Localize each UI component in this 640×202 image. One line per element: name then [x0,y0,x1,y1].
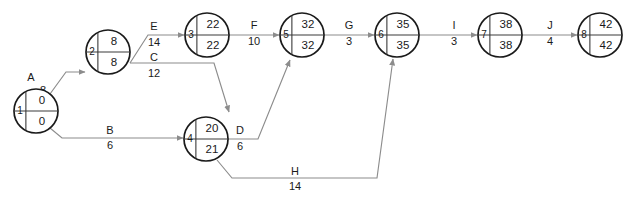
edge-duration-F: 10 [248,35,260,47]
edge-duration-E: 14 [148,36,160,48]
node-2-early: 8 [111,35,117,47]
edge-duration-G: 3 [346,35,352,47]
node-1-early: 0 [39,94,45,106]
edge-label-B: B [106,124,113,136]
edge-duration-J: 4 [547,35,553,47]
edge-label-H: H [291,165,299,177]
node-4[interactable]: 4 20 21 [184,117,228,161]
node-4-early: 20 [206,122,219,134]
node-8[interactable]: 8 42 42 [578,13,622,57]
edge-label-E: E [150,20,157,32]
edge-label-I: I [452,19,455,31]
node-1[interactable]: 1 0 0 [14,89,58,133]
node-5[interactable]: 5 32 32 [280,13,324,57]
edge-path-C [130,63,229,112]
node-8-late: 42 [600,39,613,51]
edge-label-C: C [150,51,158,63]
edge-duration-C: 12 [148,67,160,79]
edge-label-G: G [345,19,354,31]
node-1-late: 0 [39,115,45,127]
edge-duration-I: 3 [451,35,457,47]
node-1-id: 1 [17,105,23,116]
edge-label-A: A [27,71,35,83]
node-2-id: 2 [89,46,95,57]
node-5-id: 5 [283,29,289,40]
node-6-id: 6 [378,29,384,40]
node-7-early: 38 [500,18,513,30]
node-3[interactable]: 3 22 22 [185,13,229,57]
edge-path-H [217,59,393,178]
node-2[interactable]: 2 8 8 [86,30,130,74]
node-7[interactable]: 7 38 38 [478,13,522,57]
edge-path-A [50,72,85,94]
node-4-id: 4 [187,133,193,144]
node-3-id: 3 [188,29,194,40]
node-5-early: 32 [302,18,315,30]
edge-label-D: D [236,124,244,136]
edge-label-F: F [251,19,258,31]
network-diagram-svg: A 8 B 6 E 14 C 12 F 10 D 6 H 14 G 3 I 3 … [0,0,640,202]
node-8-early: 42 [600,18,613,30]
edge-duration-D: 6 [237,140,243,152]
node-3-early: 22 [207,18,220,30]
edge-label-J: J [547,19,553,31]
edge-duration-B: 6 [107,139,113,151]
node-2-late: 8 [111,56,117,68]
node-7-id: 7 [481,29,487,40]
node-3-late: 22 [207,39,220,51]
node-6-early: 35 [397,18,410,30]
node-6-late: 35 [397,39,410,51]
node-7-late: 38 [500,39,513,51]
edge-path-B [50,128,183,138]
node-4-late: 21 [206,143,219,155]
node-8-id: 8 [581,29,587,40]
node-6[interactable]: 6 35 35 [375,13,419,57]
edge-duration-H: 14 [289,180,301,192]
diagram-canvas: A 8 B 6 E 14 C 12 F 10 D 6 H 14 G 3 I 3 … [0,0,640,202]
node-5-late: 32 [302,39,315,51]
